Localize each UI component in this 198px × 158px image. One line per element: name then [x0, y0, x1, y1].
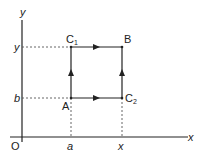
- point-label-c1: C1: [66, 33, 78, 46]
- tick-y-y: y: [13, 41, 21, 53]
- origin-label: O: [11, 140, 20, 152]
- point-label-b: B: [124, 33, 131, 45]
- point-label-c2: C2: [125, 92, 137, 105]
- arrow-up-icon: [119, 69, 125, 76]
- arrow-right-icon: [93, 44, 100, 50]
- tick-x-a: a: [67, 140, 73, 152]
- path-edges: [71, 47, 122, 98]
- x-axis-label: x: [187, 131, 194, 143]
- tick-y-b: b: [14, 92, 20, 104]
- path-diagram: y x O y b a x C1 B A C2: [0, 0, 198, 158]
- point-label-a: A: [62, 100, 70, 112]
- direction-arrows: [68, 44, 125, 101]
- arrow-right-icon: [93, 95, 100, 101]
- arrow-up-icon: [68, 69, 74, 76]
- dashed-guides: [22, 47, 122, 137]
- y-axis-label: y: [19, 6, 27, 18]
- vertices: [70, 46, 124, 100]
- tick-x-x: x: [117, 140, 124, 152]
